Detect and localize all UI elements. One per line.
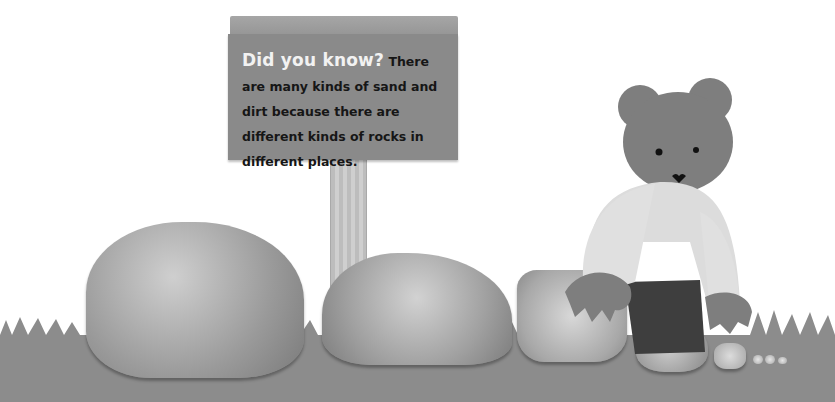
sign-top-edge (230, 16, 458, 36)
sign-lead: Did you know? (242, 50, 384, 70)
sign-body: There are many kinds of sand and dirt be… (242, 54, 437, 169)
sign-text: Did you know? There are many kinds of sa… (242, 48, 452, 174)
large-granite-rock (86, 222, 304, 378)
sand-grain (765, 355, 775, 364)
illustration-scene: Did you know? There are many kinds of sa… (0, 0, 835, 402)
did-you-know-sign: Did you know? There are many kinds of sa… (228, 34, 458, 160)
bear-character (560, 72, 760, 362)
sand-grain (778, 357, 787, 364)
medium-granite-rock (322, 253, 512, 365)
